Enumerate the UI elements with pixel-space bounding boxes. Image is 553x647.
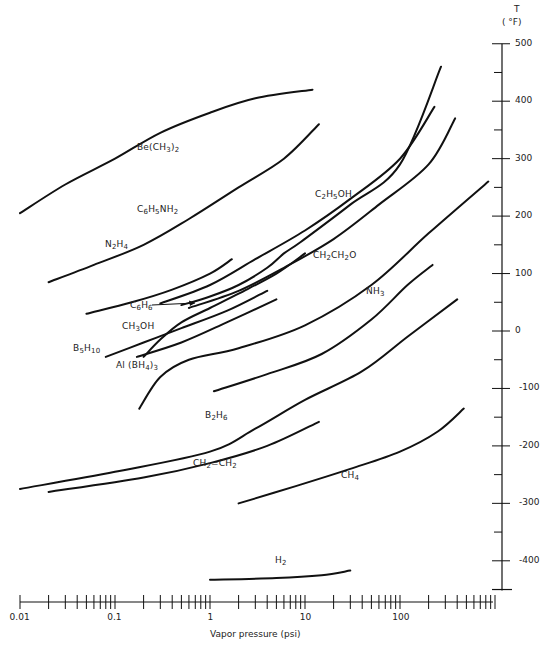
y-tick-label: -300: [519, 497, 539, 507]
vapor-pressure-chart: [0, 0, 553, 647]
y-tick-label: 100: [515, 268, 532, 278]
curve-label: C6H5NH2: [137, 204, 178, 216]
x-axis-title: Vapor pressure (psi): [210, 629, 300, 639]
x-tick-label: 100: [392, 612, 409, 622]
curve-ch2-ch2: [49, 422, 319, 492]
curve-nh3-lower: [214, 265, 433, 391]
curve-label: CH3OH: [122, 321, 154, 333]
y-axis: [492, 44, 512, 591]
curve-label: H2: [275, 555, 287, 567]
y-tick-label: -400: [519, 555, 539, 565]
curve-n2h4: [86, 259, 232, 314]
y-tick-label: -100: [519, 382, 539, 392]
y-tick-label: 500: [515, 38, 532, 48]
y-tick-label: 0: [515, 325, 521, 335]
curve-label: Be(CH3)2: [137, 142, 179, 154]
curve-nh3: [139, 182, 488, 409]
curve-label: C2H5OH: [315, 189, 352, 201]
curve-c6h6: [181, 67, 441, 305]
curve-ch4: [239, 409, 464, 504]
curve-al-bh4-3: [137, 299, 277, 357]
curve-label: C6H6: [130, 300, 153, 312]
y-axis-title-line1: T: [514, 4, 520, 14]
curves-group: [20, 67, 488, 580]
curve-c2h5oh: [160, 107, 434, 304]
x-tick-label: 0.01: [10, 612, 30, 622]
x-tick-label: 0.1: [107, 612, 121, 622]
curve-b2h6: [20, 299, 457, 489]
curve-label: NH3: [366, 286, 385, 298]
y-axis-title-line2: ( °F): [502, 17, 522, 27]
curve-label: B2H6: [205, 410, 228, 422]
y-tick-label: -200: [519, 440, 539, 450]
x-tick-label: 1: [207, 612, 213, 622]
curve-label: CH2CH2O: [313, 250, 357, 262]
y-tick-label: 400: [515, 95, 532, 105]
curve-label: Al (BH4)3: [116, 360, 158, 372]
curve-h2: [210, 571, 350, 580]
x-tick-label: 10: [300, 612, 311, 622]
x-axis: [20, 595, 495, 609]
curve-label: B5H10: [73, 343, 100, 355]
y-tick-label: 300: [515, 153, 532, 163]
curve-label: CH4: [341, 470, 359, 482]
curve-label: N2H4: [105, 239, 128, 251]
curve-label: CH2=CH2: [193, 458, 237, 470]
y-tick-label: 200: [515, 210, 532, 220]
